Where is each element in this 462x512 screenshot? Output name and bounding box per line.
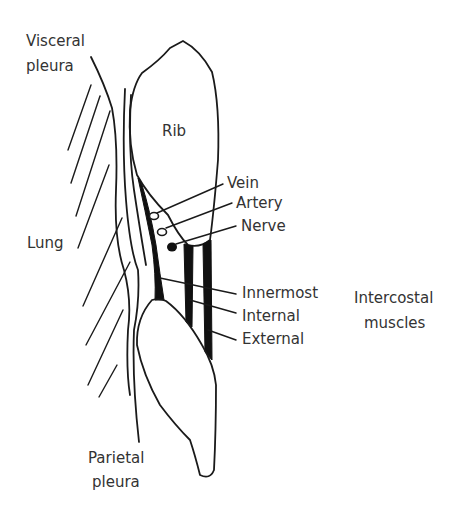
label-visceral: Visceral (26, 32, 85, 50)
artery-vessel (158, 229, 167, 236)
label-visceral-pleura: pleura (26, 57, 74, 75)
intercostal-diagram: Visceral pleura Rib Vein Artery Nerve Lu… (0, 0, 462, 512)
external-muscle-band (203, 240, 212, 360)
lung-hatching (68, 85, 130, 397)
label-innermost: Innermost (242, 284, 318, 302)
label-vein: Vein (227, 174, 259, 192)
label-nerve: Nerve (241, 217, 286, 235)
label-intercostal: Intercostal (354, 289, 433, 307)
leader-lines (157, 184, 236, 340)
label-external: External (242, 330, 304, 348)
upper-rib (130, 41, 219, 246)
internal-muscle-band (184, 244, 193, 327)
label-internal: Internal (242, 307, 300, 325)
label-parietal: Parietal (88, 449, 144, 467)
label-rib: Rib (162, 122, 186, 140)
label-artery: Artery (236, 194, 283, 212)
label-muscles: muscles (364, 314, 426, 332)
label-lung: Lung (27, 234, 64, 252)
label-parietal-pleura: pleura (92, 473, 140, 491)
